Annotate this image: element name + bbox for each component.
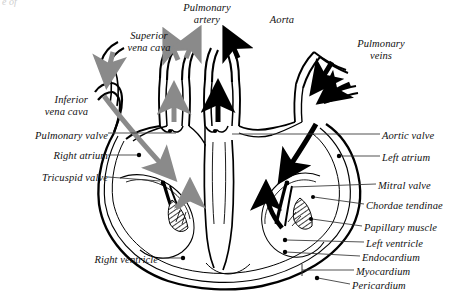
pulmonary-trunk-left — [159, 78, 160, 126]
pulmonary-trunk-right — [189, 78, 190, 126]
pulmonary-vein-lower-arrow — [322, 84, 350, 100]
interventricular-septum-right — [223, 140, 234, 270]
right-atrium-septal-notch — [189, 126, 205, 144]
svc-inflow-arrow — [107, 52, 113, 82]
marker-right-atrium — [137, 153, 141, 157]
label-aorta: Aorta — [258, 14, 306, 26]
pulmonary-vein-upper-arrow — [314, 62, 332, 90]
label-chordae-tendinae: Chordae tendinae — [366, 200, 463, 212]
label-endocardium: Endocardium — [362, 252, 462, 264]
label-left-ventricle: Left ventricle — [366, 238, 462, 250]
septum-inner-a — [212, 142, 214, 224]
ascending-aorta-right-inner — [232, 82, 233, 126]
mitral-papillary-muscle — [293, 198, 312, 229]
label-pulmonary-artery: Pulmonary artery — [168, 2, 246, 25]
pulmonary-valve-node — [168, 129, 172, 133]
ivc-inflow-arrow — [104, 96, 172, 176]
marker-left-atrium — [337, 154, 341, 158]
marker-chordae-tendinae — [311, 195, 315, 199]
marker-endocardium — [283, 250, 287, 254]
marker-right-ventricle — [181, 256, 185, 260]
valves-group — [160, 126, 312, 231]
marker-papillary-muscle — [309, 217, 313, 221]
septum-inner-b — [224, 142, 226, 224]
label-right-atrium: Right atrium — [12, 150, 108, 162]
aortic-valve-node — [213, 129, 217, 133]
label-right-ventricle: Right ventricle — [58, 254, 158, 266]
label-aortic-valve: Aortic valve — [382, 130, 463, 142]
mitral-valve-leaflets — [276, 181, 292, 226]
ascending-aorta-left-inner — [211, 82, 212, 126]
label-inferior-vena-cava: Inferior vena cava — [10, 94, 88, 117]
leader-left-ventricle — [286, 240, 364, 242]
leader-pericardium — [318, 278, 350, 284]
ascending-aorta-right — [239, 80, 240, 126]
label-left-atrium: Left atrium — [382, 152, 463, 164]
pulmonary-trunk-left-inner — [166, 80, 167, 126]
label-pericardium: Pericardium — [352, 280, 460, 292]
marker-pericardium — [315, 276, 319, 280]
label-mitral-valve: Mitral valve — [378, 180, 462, 192]
heart-diagram-figure: e of — [0, 0, 463, 297]
left-atrium-inflow-arrow — [282, 124, 316, 178]
label-superior-vena-cava: Superior vena cava — [110, 30, 188, 53]
left-atrium-vein-trunk-inner — [301, 88, 303, 122]
left-atrium-roof — [239, 122, 295, 130]
marker-left-ventricle — [283, 238, 287, 242]
pulmonary-trunk-right-inner — [182, 80, 183, 126]
left-atrium-vein-trunk — [294, 84, 296, 122]
leader-tricuspid-valve — [108, 177, 160, 181]
leader-mitral-valve — [292, 184, 376, 187]
label-papillary-muscle: Papillary muscle — [364, 222, 463, 234]
label-tricuspid-valve: Tricuspid valve — [6, 172, 108, 184]
label-pulmonary-veins: Pulmonary veins — [342, 38, 420, 61]
label-myocardium: Myocardium — [356, 266, 460, 278]
ascending-aorta-left — [204, 80, 205, 126]
label-pulmonary-valve: Pulmonary valve — [2, 130, 108, 142]
